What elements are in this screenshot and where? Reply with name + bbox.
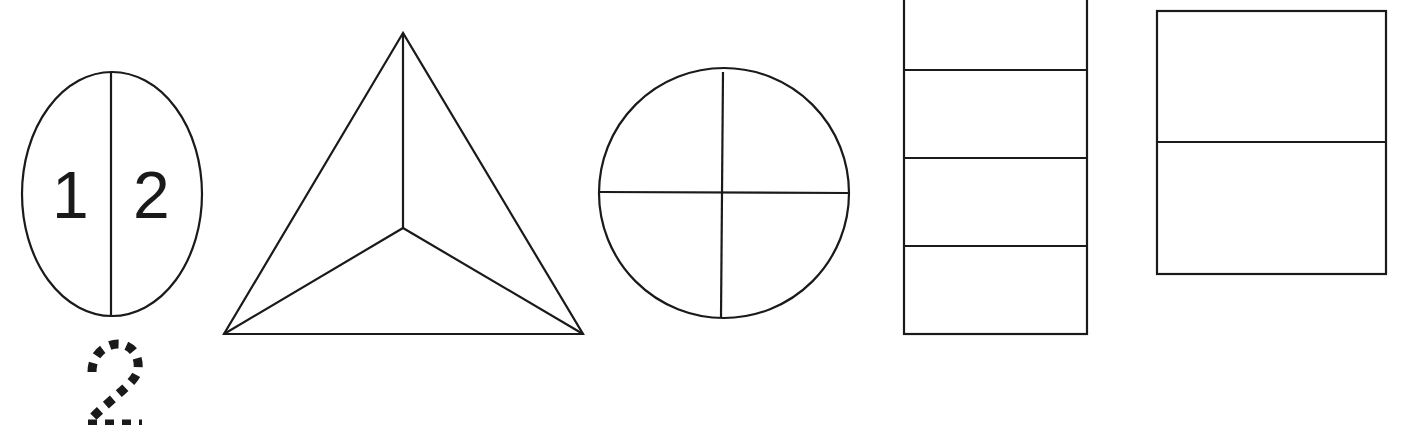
rectangle-quarters — [904, 0, 1087, 334]
square-halves — [1157, 11, 1386, 274]
oval-label-1: 1 — [52, 158, 89, 232]
trace-number-value: 2 — [0, 0, 9, 3]
worksheet-canvas: 1 2 2 — [0, 0, 1404, 425]
oval-label-2: 2 — [133, 158, 170, 232]
circle-quarters — [599, 68, 849, 318]
oval-halves: 1 2 — [22, 72, 202, 316]
triangle-thirds — [224, 33, 583, 334]
